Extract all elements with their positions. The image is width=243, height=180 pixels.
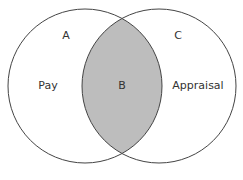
region-label-c: C [174, 30, 182, 41]
set-label-pay: Pay [38, 80, 57, 91]
region-label-b: B [118, 80, 126, 91]
set-label-appraisal: Appraisal [172, 80, 223, 91]
region-label-a: A [62, 30, 70, 41]
